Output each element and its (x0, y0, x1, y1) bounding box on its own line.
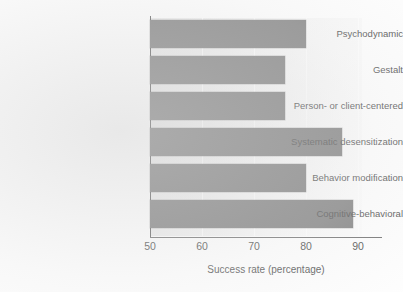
category-label-gestalt: Gestalt (261, 64, 403, 75)
category-label-behavior-modification: Behavior modification (261, 172, 403, 183)
gridline-90 (358, 18, 359, 237)
bar-chart-figure: Psychodynamic Gestalt Person- or client-… (0, 0, 403, 292)
category-label-systematic-desensitization: Systematic desensitization (261, 136, 403, 147)
category-label-cognitive-behavioral: Cognitive-behavioral (261, 208, 403, 219)
x-tick-label-80: 80 (300, 240, 312, 252)
category-label-person-or-client-centered: Person- or client-centered (261, 100, 403, 111)
x-axis-line (150, 237, 382, 238)
x-axis-title: Success rate (percentage) (150, 264, 382, 275)
category-label-psychodynamic: Psychodynamic (261, 28, 403, 39)
x-tick-label-50: 50 (144, 240, 156, 252)
x-tick-label-60: 60 (196, 240, 208, 252)
x-tick-label-90: 90 (352, 240, 364, 252)
x-tick-label-70: 70 (248, 240, 260, 252)
